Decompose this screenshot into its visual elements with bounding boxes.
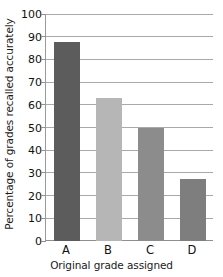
y-axis-tick-label: 60	[16, 99, 42, 110]
y-axis-tick-label: 80	[16, 54, 42, 65]
bar-a	[54, 42, 79, 241]
y-axis-tick-labels: 0102030405060708090100	[16, 14, 42, 241]
x-axis-tick-label: C	[146, 243, 154, 257]
bar-series	[46, 14, 213, 241]
y-axis-tick-label: 0	[16, 236, 42, 247]
bar-c	[138, 128, 163, 242]
bar-d	[180, 179, 205, 241]
y-axis-title-text: Percentage of grades recalled accurately	[3, 18, 15, 229]
y-axis-tick-label: 20	[16, 190, 42, 201]
x-axis-title: Original grade assigned	[0, 259, 223, 271]
y-axis-tick-label: 90	[16, 31, 42, 42]
x-axis-tick-label: B	[104, 243, 112, 257]
x-axis-tick-label: D	[188, 243, 197, 257]
y-axis-tick-label: 30	[16, 167, 42, 178]
y-axis-tick-label: 70	[16, 77, 42, 88]
x-axis-tick-labels: ABCD	[45, 243, 213, 259]
y-axis-tick-label: 10	[16, 213, 42, 224]
plot-area	[45, 14, 213, 241]
bar-chart: Percentage of grades recalled accurately…	[0, 0, 223, 277]
y-axis-tick-label: 50	[16, 122, 42, 133]
bar-b	[96, 98, 121, 241]
y-axis-tick-label: 40	[16, 145, 42, 156]
y-axis-tick-label: 100	[16, 9, 42, 20]
x-axis-tick-label: A	[62, 243, 70, 257]
